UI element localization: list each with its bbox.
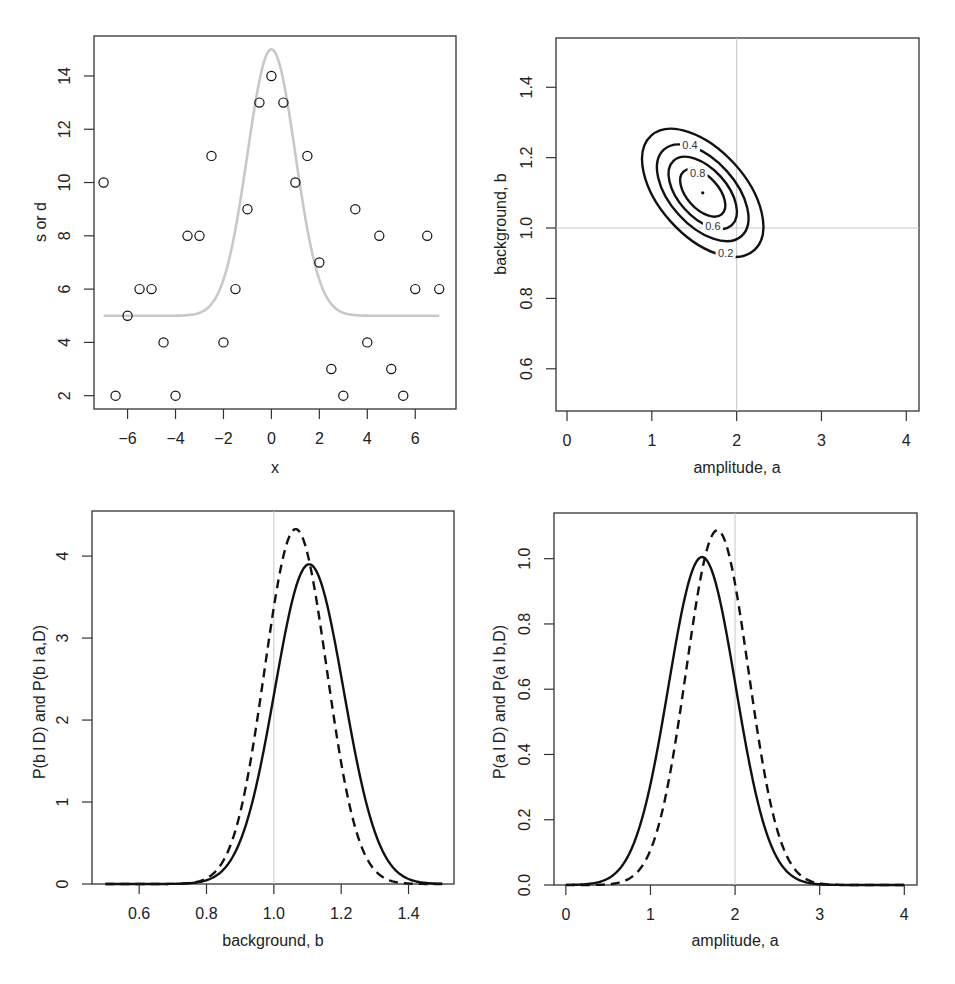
y-tick-label: 4	[54, 552, 71, 561]
x-tick-label: 2	[731, 906, 740, 923]
data-point	[159, 338, 168, 347]
y-axis-title: background, b	[492, 173, 509, 275]
mode-marker	[701, 191, 704, 194]
panel-joint-posterior: 0.40.80.60.2 01234 0.60.81.01.21.4 ampli…	[492, 38, 919, 476]
x-tick-label: 0	[267, 430, 276, 447]
y-axis-ticks: 01234	[54, 552, 92, 889]
y-tick-label: 2	[56, 391, 73, 400]
x-tick-label: 0	[561, 906, 570, 923]
y-axis-ticks: 2468101214	[56, 67, 94, 400]
x-tick-label: −6	[118, 430, 136, 447]
y-tick-label: 2	[54, 715, 71, 724]
y-tick-label: 12	[56, 120, 73, 138]
x-tick-label: 1	[647, 432, 656, 449]
y-axis-title: P(a I D) and P(a I b,D)	[491, 625, 508, 779]
data-point	[231, 285, 240, 294]
figure: −6−4−20246 2468101214 x s or d 0.40.80.6…	[0, 0, 955, 984]
y-tick-label: 1	[54, 797, 71, 806]
data-point	[351, 205, 360, 214]
x-tick-label: −4	[166, 430, 184, 447]
x-axis-title: x	[271, 459, 279, 476]
y-tick-label: 4	[56, 338, 73, 347]
data-point	[111, 391, 120, 400]
data-point	[375, 231, 384, 240]
x-axis-title: amplitude, a	[691, 932, 778, 949]
x-tick-label: 0.6	[128, 905, 150, 922]
y-tick-label: 1.2	[518, 146, 535, 168]
plot-area: 0.40.80.60.2	[556, 38, 919, 411]
data-point	[435, 285, 444, 294]
x-tick-label: 4	[902, 432, 911, 449]
x-tick-label: 6	[411, 430, 420, 447]
data-point	[411, 285, 420, 294]
x-tick-label: 0	[563, 432, 572, 449]
data-point	[327, 364, 336, 373]
y-tick-label: 0.2	[516, 809, 533, 831]
data-point	[315, 258, 324, 267]
data-point	[147, 285, 156, 294]
data-point	[267, 71, 276, 80]
plot-area	[554, 513, 917, 885]
data-point	[387, 364, 396, 373]
x-tick-label: 1.0	[263, 905, 285, 922]
x-axis-ticks: −6−4−20246	[118, 409, 419, 447]
y-tick-label: 3	[54, 634, 71, 643]
plot-frame	[556, 38, 919, 411]
plot-area	[94, 36, 456, 409]
y-tick-label: 0.0	[516, 874, 533, 896]
y-tick-label: 6	[56, 285, 73, 294]
data-point	[399, 391, 408, 400]
data-point	[339, 391, 348, 400]
plot-frame	[94, 36, 456, 409]
x-axis-ticks: 0.60.81.01.21.4	[128, 884, 420, 922]
data-point	[303, 151, 312, 160]
x-tick-label: 4	[363, 430, 372, 447]
data-point	[219, 338, 228, 347]
y-tick-label: 14	[56, 67, 73, 85]
contour-label: 0.2	[718, 247, 733, 259]
model-curve	[104, 49, 440, 315]
data-point	[99, 178, 108, 187]
panel-data-fit: −6−4−20246 2468101214 x s or d	[32, 36, 456, 476]
x-tick-label: −2	[214, 430, 232, 447]
x-axis-ticks: 01234	[563, 411, 911, 449]
x-tick-label: 1.2	[330, 905, 352, 922]
x-tick-label: 3	[817, 432, 826, 449]
data-point	[207, 151, 216, 160]
x-tick-label: 2	[315, 430, 324, 447]
data-point	[195, 231, 204, 240]
data-point	[183, 231, 192, 240]
data-point	[135, 285, 144, 294]
y-tick-label: 1.0	[516, 547, 533, 569]
y-tick-label: 1.4	[518, 76, 535, 98]
plot-area	[92, 511, 454, 884]
y-axis-ticks: 0.60.81.01.21.4	[518, 76, 556, 380]
x-tick-label: 1.4	[397, 905, 419, 922]
x-axis-ticks: 01234	[561, 885, 908, 923]
x-axis-title: background, b	[222, 932, 324, 949]
y-axis-title: s or d	[32, 202, 49, 242]
y-tick-label: 0.4	[516, 743, 533, 765]
y-axis-title: P(b I D) and P(b I a,D)	[31, 625, 48, 779]
x-tick-label: 3	[815, 906, 824, 923]
data-point	[171, 391, 180, 400]
y-tick-label: 0.6	[516, 678, 533, 700]
contour-label: 0.8	[690, 167, 705, 179]
data-point	[363, 338, 372, 347]
x-tick-label: 4	[900, 906, 909, 923]
x-axis-title: amplitude, a	[693, 459, 780, 476]
contour-label: 0.4	[682, 139, 697, 151]
contour-label: 0.6	[705, 220, 720, 232]
y-tick-label: 1.0	[518, 217, 535, 239]
y-tick-label: 0	[54, 879, 71, 888]
panel-marginal-b: 0.60.81.01.21.4 01234 background, b P(b …	[31, 511, 454, 949]
y-tick-label: 0.6	[518, 358, 535, 380]
x-tick-label: 2	[732, 432, 741, 449]
data-point	[243, 205, 252, 214]
data-point	[423, 231, 432, 240]
x-tick-label: 0.8	[195, 905, 217, 922]
x-tick-label: 1	[646, 906, 655, 923]
y-tick-label: 10	[56, 174, 73, 192]
panel-marginal-a: 01234 0.00.20.40.60.81.0 amplitude, a P(…	[491, 513, 917, 949]
y-tick-label: 8	[56, 231, 73, 240]
